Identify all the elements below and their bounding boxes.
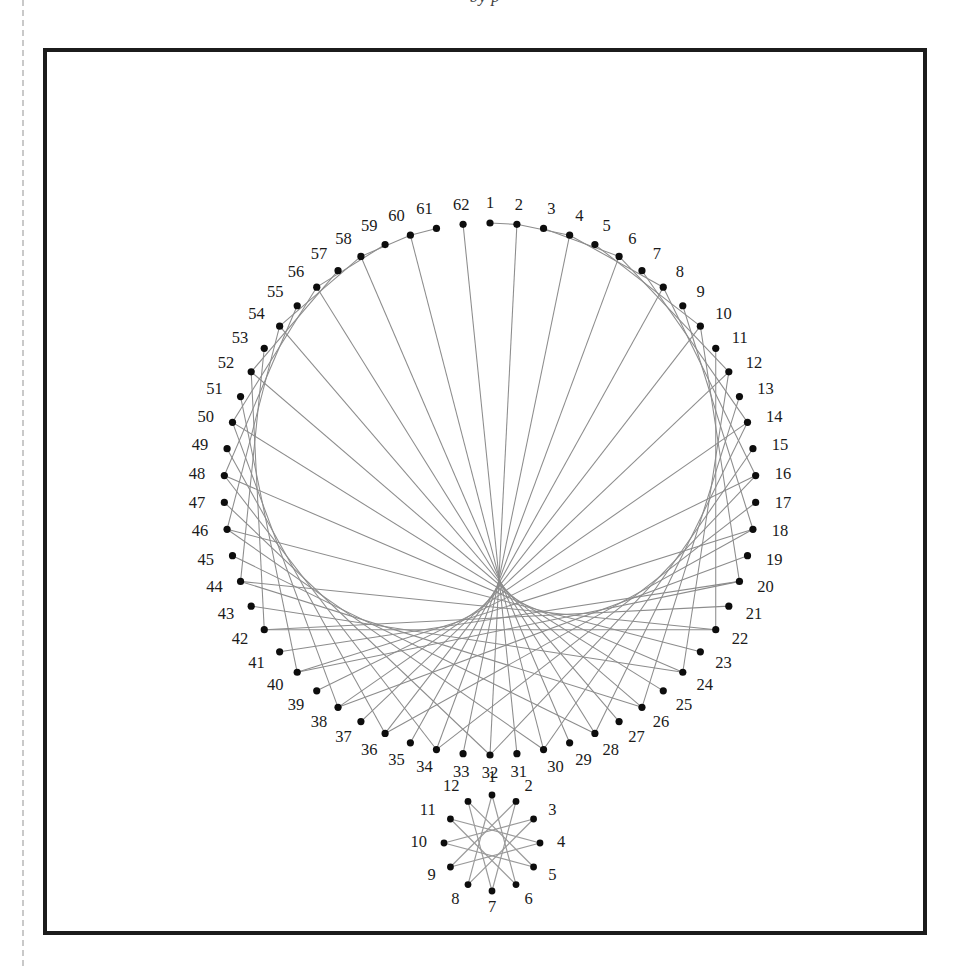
- clipped-caption: by p: [0, 0, 970, 7]
- page-edge-guide: [22, 0, 24, 966]
- figure-frame: [43, 48, 927, 935]
